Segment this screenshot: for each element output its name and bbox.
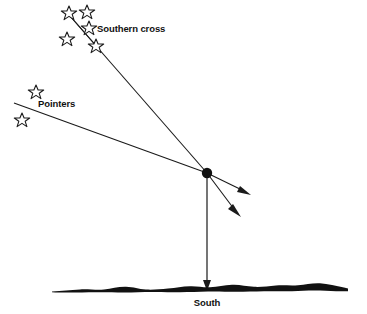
label-south: South <box>194 297 221 308</box>
label-southern-cross: Southern cross <box>97 23 165 34</box>
pointers-arrow-head <box>228 204 241 217</box>
navigation-diagram: Southern cross Pointers South <box>0 0 367 314</box>
star-icon <box>79 5 94 19</box>
star-icon <box>81 21 96 35</box>
pointers-sight-line <box>14 103 207 173</box>
southern-cross-arrow-shaft <box>207 173 244 191</box>
horizon-silhouette <box>52 283 348 292</box>
convergence-point-dot <box>202 168 212 178</box>
star-icon <box>61 6 76 20</box>
southern-cross-arrow-head <box>237 186 251 195</box>
pointers-arrow-shaft <box>207 173 234 209</box>
star-icon <box>88 39 103 53</box>
star-icon <box>28 85 43 99</box>
star-icon <box>59 32 74 46</box>
southern-cross-sight-line <box>70 16 207 173</box>
diagram-canvas: Southern cross Pointers South <box>0 0 367 314</box>
star-icon <box>14 113 29 127</box>
label-pointers: Pointers <box>38 98 75 109</box>
